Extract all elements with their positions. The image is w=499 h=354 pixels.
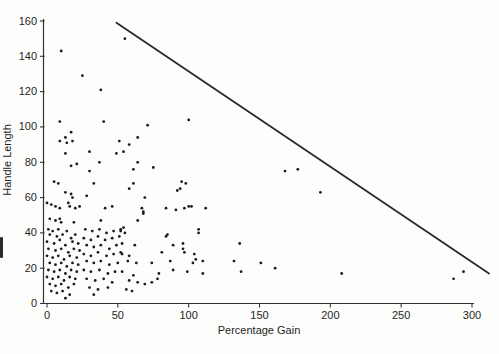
data-point [119,228,122,231]
data-point [68,276,71,279]
y-tick-label: 160 [19,15,37,27]
data-point [64,272,67,275]
data-point [57,276,60,279]
data-point [146,124,149,127]
data-point [98,161,101,164]
data-point [128,279,131,282]
data-point [111,205,114,208]
data-point [136,281,139,284]
data-point [57,182,60,185]
data-point [107,286,110,289]
data-point [67,202,70,205]
data-point [136,219,139,222]
data-point [156,277,159,280]
data-point [54,284,57,287]
data-point [112,230,115,233]
data-point [240,270,243,273]
data-point [61,290,64,293]
data-point [194,258,197,261]
data-point [111,281,114,284]
data-point [65,141,68,144]
data-point [90,239,93,242]
x-axis-title: Percentage Gain [218,324,301,336]
data-point [70,131,73,134]
data-point [99,260,102,263]
data-point [150,281,153,284]
data-point [125,288,128,291]
data-point [58,239,61,242]
data-point [77,242,80,245]
x-tick-label: 250 [392,309,410,321]
data-point [182,247,185,250]
data-point [68,254,71,257]
data-point [124,232,127,235]
data-points [46,37,465,299]
data-point [74,233,77,236]
data-point [98,269,101,272]
data-point [91,230,94,233]
data-point [92,262,95,265]
data-point [67,286,70,289]
data-point [165,235,168,238]
data-point [133,244,136,247]
data-point [105,254,108,257]
data-point [128,254,131,257]
data-point [169,260,172,263]
data-point [47,247,50,250]
data-point [51,277,54,280]
data-point [274,267,277,270]
data-point [319,191,322,194]
y-tick-label: 120 [19,85,37,97]
data-point [71,262,74,265]
x-tick-label: 50 [112,309,124,321]
data-point [132,168,135,171]
data-point [82,237,85,240]
data-point [73,283,76,286]
data-point [115,152,118,155]
data-point [54,219,57,222]
data-point [118,140,121,143]
frontier-line-segment [116,23,489,274]
data-point [53,242,56,245]
data-point [68,293,71,296]
data-point [128,143,131,146]
data-point [187,119,190,122]
data-point [112,253,115,256]
data-point [179,187,182,190]
data-point [74,207,77,210]
data-point [143,283,146,286]
data-point [85,194,88,197]
data-point [197,228,200,231]
data-point [67,251,70,254]
data-point [462,270,465,273]
x-tick-label: 100 [179,309,197,321]
x-tick-label: 150 [250,309,268,321]
data-point [114,270,117,273]
data-point [150,262,153,265]
data-point [48,262,51,265]
data-point [201,272,204,275]
data-point [204,207,207,210]
data-point [57,254,60,257]
data-point [172,269,175,272]
data-point [82,253,85,256]
data-point [84,228,87,231]
y-tick-label: 80 [25,156,37,168]
data-point [186,270,189,273]
data-point [54,249,57,252]
data-point [121,270,124,273]
data-point [99,244,102,247]
frontier-line [116,23,489,274]
data-point [119,251,122,254]
data-point [56,235,59,238]
data-point [141,207,144,210]
data-point [131,290,134,293]
data-point [58,207,61,210]
data-point [108,247,111,250]
data-point [71,240,74,243]
data-point [58,269,61,272]
data-point [108,263,111,266]
data-point [64,244,67,247]
x-tick-label: 200 [321,309,339,321]
data-point [53,180,56,183]
